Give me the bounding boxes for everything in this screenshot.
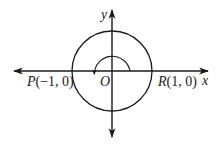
y-axis-label: y: [99, 7, 108, 22]
point-p-label: P(−1, 0): [26, 74, 74, 90]
point-r-coords: (1, 0): [167, 74, 198, 90]
point-r-name: R: [157, 74, 167, 89]
x-axis-label: x: [201, 73, 209, 88]
point-r-label: R(1, 0): [157, 74, 197, 90]
point-p-coords: (−1, 0): [36, 74, 75, 90]
point-p-name: P: [26, 74, 36, 89]
unit-circle-diagram: y x O P(−1, 0) R(1, 0): [0, 0, 223, 146]
origin-label: O: [100, 74, 110, 89]
